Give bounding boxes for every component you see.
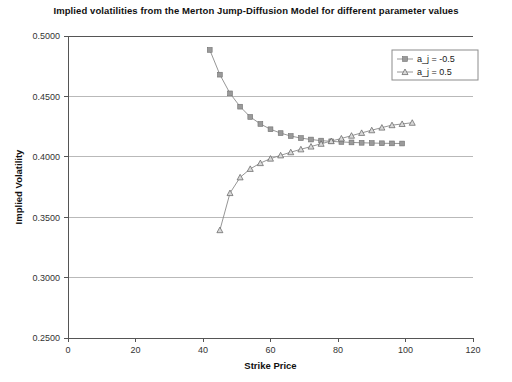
y-tick-label: 0.2500	[32, 333, 60, 343]
y-axis-title: Implied Volatility	[13, 149, 24, 224]
data-point-marker	[238, 104, 243, 109]
y-tick-label: 0.3500	[32, 213, 60, 223]
legend-label-1: a_j = 0.5	[417, 67, 452, 77]
data-point-marker	[217, 227, 223, 233]
x-tick-label: 60	[265, 345, 275, 355]
x-tick-label: 20	[130, 345, 140, 355]
series-line-1	[220, 123, 412, 230]
data-point-marker	[257, 160, 263, 166]
x-tick-label: 0	[65, 345, 70, 355]
x-tick-label: 40	[198, 345, 208, 355]
data-point-marker	[248, 115, 253, 120]
data-point-marker	[359, 140, 364, 145]
data-point-marker	[349, 140, 354, 145]
data-point-marker	[400, 141, 405, 146]
data-point-marker	[390, 141, 395, 146]
chart-container: Implied volatilities from the Merton Jum…	[0, 0, 512, 382]
x-tick-label: 100	[398, 345, 413, 355]
x-tick-label: 80	[333, 345, 343, 355]
data-point-marker	[217, 72, 222, 77]
x-axis-title: Strike Price	[244, 360, 296, 371]
data-point-marker	[379, 141, 384, 146]
data-point-marker	[369, 141, 374, 146]
data-point-marker	[227, 190, 233, 196]
data-point-marker	[309, 137, 314, 142]
x-tick-label: 120	[465, 345, 480, 355]
data-point-marker	[278, 131, 283, 136]
data-point-marker	[409, 120, 415, 126]
chart-plot-area: 0.25000.30000.35000.40000.45000.50000204…	[0, 0, 512, 382]
y-tick-label: 0.4000	[32, 152, 60, 162]
data-point-marker	[298, 136, 303, 141]
data-point-marker	[207, 47, 212, 52]
data-point-marker	[247, 166, 253, 172]
legend-label-0: a_j = -0.5	[417, 54, 455, 64]
data-point-marker	[228, 91, 233, 96]
data-point-marker	[288, 134, 293, 139]
y-tick-label: 0.5000	[32, 31, 60, 41]
legend-marker-square	[403, 57, 408, 62]
data-point-marker	[258, 122, 263, 127]
y-tick-label: 0.4500	[32, 92, 60, 102]
data-point-marker	[268, 127, 273, 132]
y-tick-label: 0.3000	[32, 273, 60, 283]
